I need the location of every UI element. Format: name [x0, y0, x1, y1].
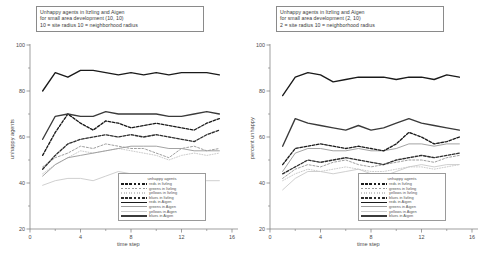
legend-swatch: [361, 182, 387, 186]
y-tick-label: 100: [16, 42, 25, 48]
series-line: [43, 144, 220, 167]
legend-swatch: [121, 210, 147, 214]
y-tick-label: 40: [19, 180, 25, 186]
x-tick-label: 12: [419, 234, 425, 240]
legend-swatch: [121, 201, 147, 205]
legend-item: blues in Aigen: [361, 214, 443, 219]
legend-swatch: [121, 187, 147, 191]
x-tick-label: 16: [469, 234, 475, 240]
y-tick-label: 20: [19, 226, 25, 232]
y-tick-label: 80: [259, 88, 265, 94]
legend-swatch: [361, 210, 387, 214]
legend-label: blues in Aigen: [389, 214, 413, 219]
legend-rows: reds in Itzlinggreens in Itzlingyellows …: [361, 182, 443, 219]
x-tick-label: 4: [319, 234, 322, 240]
x-tick-label: 8: [130, 234, 133, 240]
legend-swatch: [361, 205, 387, 209]
series-line: [43, 70, 220, 91]
series-line: [283, 153, 460, 174]
figure-root: Unhappy agents in Itzling and Aigen for …: [0, 0, 480, 259]
y-tick-label: 40: [259, 180, 265, 186]
legend-swatch: [361, 191, 387, 195]
series-line: [283, 73, 460, 96]
legend-rows: reds in Itzlinggreens in Itzlingyellows …: [121, 182, 203, 219]
y-tick-label: 60: [19, 134, 25, 140]
x-tick-label: 8: [370, 234, 373, 240]
y-axis-label-right: percent unhappy: [249, 117, 255, 159]
x-tick-label: 0: [269, 234, 272, 240]
legend-right: unhappy agents reds in Itzlinggreens in …: [358, 173, 446, 221]
legend-swatch: [121, 182, 147, 186]
legend-left: unhappy agents reds in Itzlinggreens in …: [118, 173, 206, 221]
y-tick-label: 80: [19, 88, 25, 94]
chart-panel-left: Unhappy agents in Itzling and Aigen for …: [0, 0, 240, 259]
legend-swatch: [361, 214, 387, 218]
y-tick-label: 60: [259, 134, 265, 140]
legend-swatch: [121, 205, 147, 209]
legend-swatch: [121, 196, 147, 200]
y-tick-label: 100: [256, 42, 265, 48]
legend-swatch: [361, 201, 387, 205]
series-line: [43, 130, 220, 169]
y-axis-label-left: unhappy agents: [9, 119, 15, 159]
legend-label: blues in Aigen: [149, 214, 173, 219]
x-axis-label-left: time step: [117, 241, 140, 247]
legend-item: blues in Aigen: [121, 214, 203, 219]
x-tick-label: 16: [229, 234, 235, 240]
legend-swatch: [121, 214, 147, 218]
legend-swatch: [361, 196, 387, 200]
y-tick-label: 20: [259, 226, 265, 232]
x-tick-label: 12: [179, 234, 185, 240]
x-tick-label: 4: [79, 234, 82, 240]
x-tick-label: 0: [29, 234, 32, 240]
legend-swatch: [121, 191, 147, 195]
legend-swatch: [361, 187, 387, 191]
chart-panel-right: Unhappy agents in Itzling and Aigen for …: [240, 0, 480, 259]
x-axis-label-right: time step: [357, 241, 380, 247]
series-line: [283, 119, 460, 147]
series-line: [43, 146, 220, 176]
